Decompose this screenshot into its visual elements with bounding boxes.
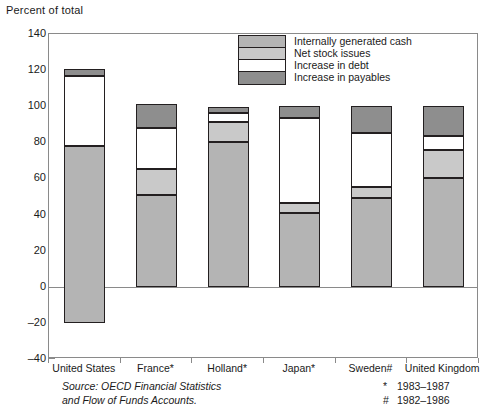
source-line-2: and Flow of Funds Accounts. bbox=[62, 393, 221, 407]
legend-swatch bbox=[239, 36, 285, 48]
y-tick-label: –20 bbox=[0, 316, 46, 328]
legend-label: Net stock issues bbox=[294, 47, 412, 59]
footnote-2-text: 1982–1986 bbox=[397, 393, 450, 407]
x-tick-mark bbox=[478, 358, 479, 363]
segment-increase-in-payables[interactable] bbox=[423, 106, 464, 136]
footnote-1-symbol: * bbox=[383, 379, 397, 393]
segment-increase-in-debt[interactable] bbox=[64, 76, 105, 146]
segment-increase-in-debt[interactable] bbox=[423, 136, 464, 150]
legend-swatches bbox=[238, 35, 286, 85]
y-tick-label: 120 bbox=[0, 63, 46, 75]
footnote-1-text: 1983–1987 bbox=[397, 379, 450, 393]
segment-internally-generated-cash[interactable] bbox=[351, 198, 392, 286]
y-tick-label: –40 bbox=[0, 352, 46, 364]
x-tick-label: Holland* bbox=[207, 362, 247, 374]
x-tick-label: France* bbox=[137, 362, 174, 374]
bar-group[interactable] bbox=[136, 34, 177, 357]
footnote-2-symbol: # bbox=[383, 393, 397, 407]
segment-net-stock-issues[interactable] bbox=[351, 187, 392, 198]
y-tick-label: 0 bbox=[0, 280, 46, 292]
x-tick-mark bbox=[263, 358, 264, 363]
x-tick-label: Japan* bbox=[282, 362, 315, 374]
legend-label: Increase in debt bbox=[294, 59, 412, 71]
legend-swatch bbox=[239, 72, 285, 84]
footnotes: * 1983–1987 # 1982–1986 bbox=[383, 379, 450, 407]
x-tick-mark bbox=[335, 358, 336, 363]
segment-net-stock-issues[interactable] bbox=[136, 169, 177, 194]
legend-swatch bbox=[239, 60, 285, 72]
segment-increase-in-debt[interactable] bbox=[279, 118, 320, 203]
segment-increase-in-debt[interactable] bbox=[351, 133, 392, 187]
x-tick-label: United Kingdom bbox=[405, 362, 480, 374]
segment-net-stock-issues[interactable] bbox=[279, 203, 320, 213]
footnote-2: # 1982–1986 bbox=[383, 393, 450, 407]
x-tick-label: Sweden# bbox=[349, 362, 393, 374]
segment-net-stock-issues[interactable] bbox=[208, 122, 249, 142]
y-tick-label: 40 bbox=[0, 208, 46, 220]
bar-group[interactable] bbox=[423, 34, 464, 357]
chart-root: Percent of total 140120100806040200–20–4… bbox=[0, 0, 496, 416]
segment-increase-in-payables[interactable] bbox=[64, 69, 105, 75]
legend: Internally generated cashNet stock issue… bbox=[238, 35, 412, 85]
source-note: Source: OECD Financial Statistics and Fl… bbox=[62, 379, 221, 407]
legend-label: Increase in payables bbox=[294, 71, 412, 83]
segment-internally-generated-cash[interactable] bbox=[279, 213, 320, 287]
segment-increase-in-payables[interactable] bbox=[279, 106, 320, 118]
legend-swatch bbox=[239, 48, 285, 60]
source-line-1: Source: OECD Financial Statistics bbox=[62, 379, 221, 393]
segment-internally-generated-cash[interactable] bbox=[136, 195, 177, 287]
x-tick-mark bbox=[191, 358, 192, 363]
x-tick-mark bbox=[406, 358, 407, 363]
segment-internally-generated-cash[interactable] bbox=[208, 142, 249, 286]
segment-internally-generated-cash[interactable] bbox=[64, 146, 105, 323]
y-tick-label: 20 bbox=[0, 244, 46, 256]
y-tick-label: 100 bbox=[0, 99, 46, 111]
legend-labels: Internally generated cashNet stock issue… bbox=[294, 35, 412, 85]
y-tick-label: 60 bbox=[0, 171, 46, 183]
x-tick-mark bbox=[120, 358, 121, 363]
segment-increase-in-debt[interactable] bbox=[208, 113, 249, 122]
x-tick-mark bbox=[48, 358, 49, 363]
bar-group[interactable] bbox=[64, 34, 105, 357]
segment-net-stock-issues[interactable] bbox=[423, 150, 464, 179]
segment-increase-in-payables[interactable] bbox=[136, 104, 177, 128]
zero-line bbox=[49, 287, 477, 288]
segment-increase-in-debt[interactable] bbox=[136, 128, 177, 170]
segment-increase-in-payables[interactable] bbox=[351, 106, 392, 133]
y-tick-label: 140 bbox=[0, 27, 46, 39]
y-axis-title: Percent of total bbox=[6, 4, 83, 16]
segment-increase-in-payables[interactable] bbox=[208, 107, 249, 113]
y-tick-mark bbox=[48, 358, 55, 359]
x-tick-label: United States bbox=[52, 362, 115, 374]
footnote-1: * 1983–1987 bbox=[383, 379, 450, 393]
y-tick-label: 80 bbox=[0, 135, 46, 147]
segment-internally-generated-cash[interactable] bbox=[423, 178, 464, 286]
legend-label: Internally generated cash bbox=[294, 35, 412, 47]
